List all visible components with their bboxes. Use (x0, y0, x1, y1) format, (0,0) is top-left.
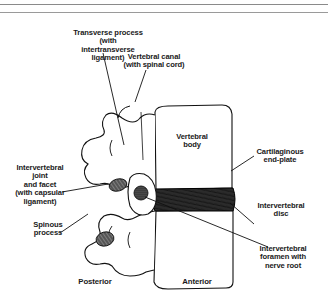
label-vertebral-body: Vertebral body (170, 133, 214, 150)
leader-vertebral-canal (135, 70, 146, 102)
lower-posterior-elements (85, 211, 155, 276)
label-intervertebral-joint-facet: Intervertebral joint and facet (with cap… (10, 164, 70, 206)
label-intervertebral-foramen: Intervertebral foramen with nerve root (250, 245, 316, 270)
label-intervertebral-disc: Intervertebral disc (250, 202, 312, 219)
label-vertebral-canal: Vertebral canal (with spinal cord) (118, 53, 190, 70)
label-anterior: Anterior (172, 278, 222, 286)
label-posterior: Posterior (70, 278, 120, 286)
nerve-root (134, 186, 148, 200)
label-spinous-process: Spinous process (28, 221, 68, 238)
intervertebral-disc-shape (152, 188, 235, 211)
label-cartilaginous-end-plate: Cartilaginous end-plate (250, 148, 310, 165)
